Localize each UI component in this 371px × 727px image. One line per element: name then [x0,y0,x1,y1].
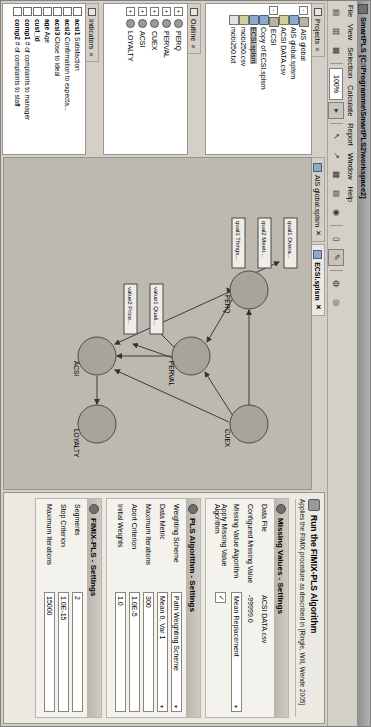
indicator-checkbox[interactable] [43,7,52,16]
chevron-down-icon[interactable]: ▼ [160,704,166,709]
construct-loyalty[interactable] [78,405,116,443]
toolbar-separator-3 [330,225,343,226]
group-header-missing-values[interactable]: Missing Values - Settings [274,499,288,717]
close-icon[interactable]: ✕ [314,304,322,310]
menu-item-file[interactable]: File [347,5,356,17]
construct-nodes [78,271,268,443]
tree-item-mobi250-txt[interactable]: mobi250.txt [229,6,239,154]
zoom-level-field[interactable]: 100% [330,68,344,100]
construct-acsi[interactable] [78,337,116,375]
indicator-checkbox[interactable] [23,7,32,16]
expander-icon[interactable]: + [151,7,160,16]
list-item[interactable]: comp2 # of complaints to staff [13,7,22,154]
indicator-checkbox[interactable] [63,7,72,16]
outline-item-cuex[interactable]: + CUEX [150,7,160,154]
stop-criterion-input[interactable]: 1.0E-15 [58,592,69,712]
data-metric-select[interactable]: Mean 0, Var 1 ▼ [157,592,168,712]
tree-item-ecsi[interactable]: - ECSI [269,6,279,154]
indicator-checkbox[interactable] [13,7,22,16]
tree-item-ais-global[interactable]: - AIS global [299,6,309,154]
tree-item-ais-global-splsm[interactable]: AIS global.splsm [289,6,299,154]
list-item[interactable]: acsi2 Confirmation to expecta... [63,7,72,154]
missing-value-algorithm-select[interactable]: Mean Replacement ▼ [231,592,242,712]
fimix-maximum-iterations-input[interactable]: 15000 [44,592,55,712]
tab-ais-global-splsm[interactable]: AIS global.splsm ✕ [312,157,325,242]
field-weighting-scheme: Weighting Scheme Path Weighting Scheme ▼ [171,504,182,712]
list-item[interactable]: acsi3 Close to ideal [53,7,62,154]
highlight-icon[interactable]: ✎ [329,249,345,266]
indicator-checkbox[interactable] [73,7,82,16]
close-icon[interactable]: ✕ [315,47,322,52]
table-icon[interactable]: ▩ [329,166,345,183]
connect-tool-icon[interactable]: ↗ [329,147,345,164]
indicator-checkbox[interactable] [33,7,42,16]
weighting-scheme-select[interactable]: Path Weighting Scheme ▼ [171,592,182,712]
menu-item-report[interactable]: Report [347,123,356,146]
expander-icon[interactable]: + [175,7,184,16]
apply-missing-value-algorithm-checkbox[interactable]: ✓ [216,592,227,603]
chevron-down-icon[interactable]: ▼ [174,704,180,709]
select-tool-icon[interactable]: ↖ [329,128,345,145]
report-icon[interactable]: ▯ [329,230,345,247]
new-icon[interactable]: ▤ [329,4,345,21]
indicator-desc: Age [44,32,51,44]
csv-icon [279,15,289,25]
save-icon[interactable]: ▦ [329,42,345,59]
menu-item-window[interactable]: Window [347,153,356,180]
close-icon[interactable]: ✕ [89,52,96,57]
expander-icon[interactable]: + [139,7,148,16]
fimix-pls-settings-pane: Run the FIMIX-PLS Algorithm Applies the … [3,492,325,724]
projects-tree-body[interactable]: - AIS global AIS global.splsm ACSI DATA.… [205,3,312,155]
list-item[interactable]: acsi1 Satisfaction [73,7,82,154]
tree-item-acsi-data-csv[interactable]: ACSI DATA.csv [279,6,289,154]
expander-icon[interactable]: + [127,7,136,16]
construct-perval[interactable] [172,337,210,375]
field-data-file: Data File ACSI DATA.csv [259,504,270,712]
tab-projects[interactable]: Projects ✕ [312,3,325,57]
menu-item-help[interactable]: Help [347,187,356,202]
construct-perq[interactable] [230,271,268,309]
abort-criterion-input[interactable]: 1.0E-5 [129,592,140,712]
tab-outline[interactable]: Outline ✕ [188,3,201,54]
list-item[interactable]: age Age [43,7,52,154]
outline-item-perq[interactable]: + PERQ [174,7,184,154]
tab-ecsi-splsm[interactable]: ECSI.splsm ✕ [312,244,325,316]
indicators-body[interactable]: acsi1 Satisfaction acsi2 Confirmation to… [2,3,86,155]
cluster-icon[interactable]: ◎ [329,294,345,311]
indicator-checkbox[interactable] [53,7,62,16]
chevron-down-icon[interactable]: ▼ [234,704,240,709]
menu-item-calculate[interactable]: Calculate [347,85,356,116]
outline-body[interactable]: + PERQ + PERVAL + CUEX [103,3,188,155]
expander-icon[interactable]: + [163,7,172,16]
segments-input[interactable]: 2 [72,592,83,712]
outline-item-loyalty[interactable]: + LOYALTY [126,7,136,154]
open-icon[interactable]: ▥ [329,23,345,40]
outline-item-perval[interactable]: + PERVAL [162,7,172,154]
outline-item-acsi[interactable]: + ACSI [138,7,148,154]
group-header-pls-algorithm[interactable]: PLS Algorithm - Settings [186,499,200,717]
zoom-in-icon[interactable]: ▸ [329,102,345,119]
list-item[interactable]: cust_id [33,7,42,154]
tree-item-copy-of-ecsi-splsm[interactable]: Copy of ECSI.splsm [259,6,269,154]
field-label: Initial Weights [117,504,124,592]
close-icon[interactable]: ✕ [314,230,322,236]
group-body-pls-algorithm: Weighting Scheme Path Weighting Scheme ▼… [107,499,186,717]
calculate-icon[interactable]: ◉ [329,204,345,221]
node-icon[interactable]: ◍ [329,275,345,292]
tree-item-mobi250-csv[interactable]: mobi250.csv [239,6,249,154]
maximum-iterations-input[interactable]: 300 [143,592,154,712]
group-header-fimix-pls[interactable]: FIMIX-PLS - Settings [87,499,101,717]
tab-indicators[interactable]: Indicators ✕ [86,3,99,62]
initial-weights-input[interactable]: 1.0 [115,592,126,712]
path-model-canvas[interactable]: PERQ PERVAL ACSI CUEX LOYALTY [3,157,312,490]
expander-icon[interactable]: - [270,6,279,15]
close-icon[interactable]: ✕ [191,44,198,49]
list-item[interactable]: comp1 # of complaints to manager [23,7,32,154]
expander-icon[interactable]: - [300,6,309,15]
menu-item-selection[interactable]: Selection [347,47,356,78]
tree-item-ecsi-splsm[interactable]: ECSI.splsm [249,6,259,154]
smartpls-application-window: SmartPLS [C:\Programme\SmartPLS2\workspa… [0,0,371,727]
menu-item-view[interactable]: View [347,24,356,40]
grid-icon[interactable]: ▤ [329,185,345,202]
construct-cuex[interactable] [230,405,268,443]
